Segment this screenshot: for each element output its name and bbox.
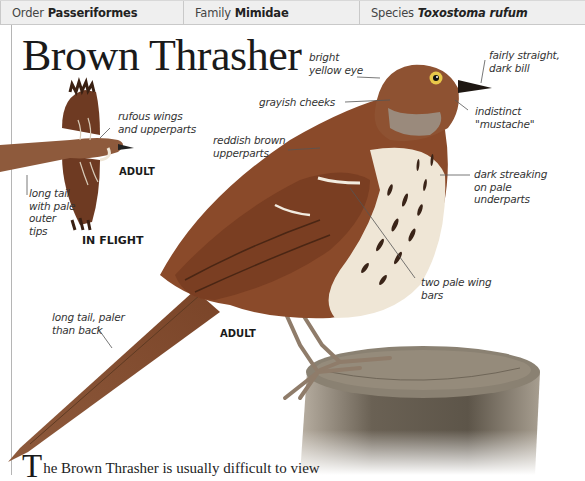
flight-age-tag: ADULT: [119, 166, 155, 177]
body-paragraph: The Brown Thrasher is usually difficult …: [22, 452, 320, 480]
flight-caption: IN FLIGHT: [82, 234, 143, 247]
label-upperparts: reddish brown upperparts: [213, 134, 286, 159]
label-underparts: dark streaking on pale underparts: [474, 168, 547, 206]
label-mustache: indistinct "mustache": [475, 105, 534, 130]
drop-cap: T: [22, 448, 42, 481]
label-wing-bars: two pale wing bars: [421, 276, 492, 301]
label-eye: bright yellow eye: [309, 51, 363, 76]
body-text-line: he Brown Thrasher is usually difficult t…: [43, 460, 319, 476]
label-rufous-wings: rufous wings and upperparts: [118, 110, 196, 135]
page-title: Brown Thrasher: [22, 34, 301, 78]
label-cheeks: grayish cheeks: [259, 96, 335, 109]
label-main-tail: long tail, paler than back: [52, 311, 125, 336]
bill: [458, 80, 492, 93]
label-flight-tail: long tail with pale outer tips: [29, 187, 75, 237]
main-age-tag: ADULT: [220, 328, 256, 339]
label-bill: fairly straight, dark bill: [489, 49, 560, 74]
